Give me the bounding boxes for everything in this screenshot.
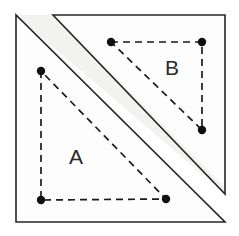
a-vertex-bottom-left-dot xyxy=(37,196,45,204)
region-label-b: B xyxy=(165,56,179,79)
b-vertex-top-right-dot xyxy=(198,38,206,46)
b-vertex-bottom-right-dot xyxy=(198,126,206,134)
region-label-a: A xyxy=(69,145,83,168)
geometry-figure: A B xyxy=(0,0,239,236)
a-vertex-bottom-right-dot xyxy=(162,195,170,203)
figure-canvas: A B xyxy=(0,0,239,236)
b-vertex-top-left-dot xyxy=(107,38,115,46)
a-vertex-top-left-dot xyxy=(37,67,45,75)
